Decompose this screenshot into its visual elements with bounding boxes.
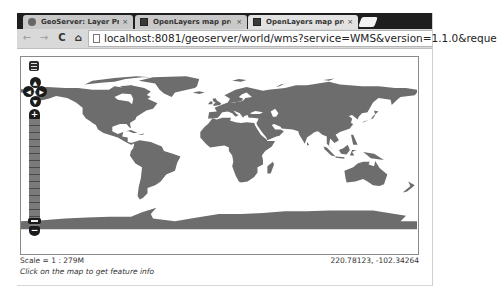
reload-button[interactable]: C: [55, 31, 69, 45]
url-text: localhost:8081/geoserver/world/wms?servi…: [104, 31, 497, 46]
tab-title: OpenLayers map previ: [266, 15, 344, 29]
pan-right-button[interactable]: ▶: [36, 86, 47, 97]
uk: [212, 98, 221, 106]
severnaya-zemlya: [324, 79, 335, 81]
iceland: [193, 91, 205, 94]
novaya-zemlya: [276, 82, 294, 87]
world-map[interactable]: [21, 70, 417, 232]
openlayers-icon: [140, 18, 148, 26]
page-content: ▲ ◀ ▶ ▼ + − Scale = 1 : 279M Click on th…: [17, 49, 432, 285]
svalbard: [232, 79, 246, 82]
tab-geoserver-layer-preview[interactable]: GeoServer: Layer Previ ×: [23, 15, 133, 29]
map-viewport[interactable]: ▲ ◀ ▶ ▼ + −: [20, 56, 419, 255]
zoom-out-button[interactable]: −: [29, 226, 40, 236]
pan-left-button[interactable]: ◀: [23, 86, 34, 97]
new-tab-button[interactable]: [358, 17, 378, 27]
zoom-slider-handle[interactable]: [28, 218, 41, 224]
home-button[interactable]: ⌂: [71, 31, 85, 45]
borneo: [339, 145, 350, 155]
openlayers-icon: [253, 18, 261, 26]
address-bar[interactable]: localhost:8081/geoserver/world/wms?servi…: [88, 30, 432, 47]
cuba: [126, 130, 138, 133]
tab-title: OpenLayers map previ: [153, 15, 231, 29]
feature-info-hint: Click on the map to get feature info: [20, 267, 154, 276]
hispaniola: [138, 133, 145, 134]
philippines: [351, 135, 358, 145]
madagascar: [267, 162, 274, 174]
tab-openlayers-preview-2[interactable]: OpenLayers map previ ×: [248, 15, 358, 29]
sulawesi: [350, 150, 357, 155]
australia: [344, 161, 387, 186]
scale-label: Scale = 1 : 279M: [20, 256, 84, 265]
ireland: [208, 102, 212, 105]
mouse-position: 220.78123, -102.34264: [330, 256, 419, 265]
new-guinea: [363, 152, 384, 160]
zoom-slider-track[interactable]: [29, 119, 40, 227]
tab-bar: GeoServer: Layer Previ × OpenLayers map …: [17, 13, 432, 29]
antarctica: [21, 208, 417, 230]
south-america: [130, 140, 181, 199]
close-icon[interactable]: ×: [236, 15, 242, 29]
back-button[interactable]: ←: [20, 31, 34, 45]
forward-button[interactable]: →: [37, 31, 51, 45]
close-icon[interactable]: ×: [347, 15, 353, 29]
page-icon: [93, 34, 100, 43]
layer-switcher-button[interactable]: [29, 61, 39, 71]
browser-window: GeoServer: Layer Previ × OpenLayers map …: [17, 13, 433, 286]
new-zealand: [403, 182, 415, 193]
java: [336, 156, 345, 158]
close-icon[interactable]: ×: [122, 15, 128, 29]
geoserver-icon: [28, 18, 36, 26]
tab-title: GeoServer: Layer Previ: [41, 15, 119, 29]
browser-toolbar: ← → C ⌂ localhost:8081/geoserver/world/w…: [17, 29, 432, 49]
sri-lanka: [307, 142, 309, 146]
north-america: [34, 85, 157, 144]
tab-openlayers-preview-1[interactable]: OpenLayers map previ ×: [135, 15, 247, 29]
pan-down-button[interactable]: ▼: [30, 96, 41, 107]
sumatra: [324, 147, 336, 157]
pan-control: ▲ ◀ ▶ ▼: [23, 77, 47, 111]
